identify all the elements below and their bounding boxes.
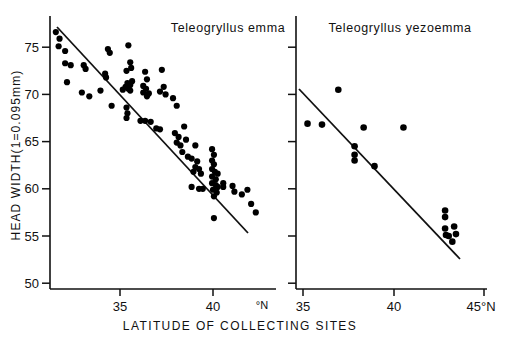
right-xtick-35: 35 — [296, 299, 310, 314]
scatter-point — [79, 89, 85, 95]
scatter-point — [179, 149, 185, 155]
scatter-point — [239, 191, 245, 197]
scatter-point — [194, 158, 200, 164]
scatter-point — [211, 193, 217, 199]
scatter-point — [253, 209, 259, 215]
scatter-point — [371, 163, 378, 170]
scatter-point — [192, 142, 198, 148]
y-axis-title: HEAD WIDTH(1=0.095mm) — [9, 70, 23, 241]
scatter-point — [190, 169, 196, 175]
scatter-point — [200, 186, 206, 192]
right-xtick-45: 45°N — [466, 299, 495, 314]
scatter-point — [198, 171, 204, 177]
scatter-point — [215, 171, 221, 177]
scatter-point — [97, 88, 103, 94]
scatter-point — [181, 123, 187, 129]
left-xtick-35: 35 — [113, 299, 127, 314]
scatter-point — [319, 121, 326, 128]
scatter-point — [445, 233, 452, 240]
scatter-point — [128, 65, 134, 71]
scatter-point — [360, 124, 367, 131]
scatter-point — [62, 60, 68, 66]
scatter-point — [177, 142, 183, 148]
scatter-point — [109, 103, 115, 109]
scatter-point — [220, 184, 226, 190]
figure-scatter-head-width: 75 70 65 60 55 50 35 40 °N Teleogryllus … — [0, 0, 515, 339]
scatter-point — [229, 183, 235, 189]
scatter-point — [64, 79, 70, 85]
scatter-point — [142, 118, 148, 124]
left-xtick-40: 40 — [206, 299, 220, 314]
scatter-point — [127, 59, 133, 65]
scatter-point — [400, 124, 407, 131]
right-y-ticks — [288, 47, 296, 283]
left-x-ticks — [120, 289, 213, 296]
right-trendline — [299, 89, 460, 259]
scatter-point — [142, 69, 148, 75]
left-panel: 75 70 65 60 55 50 35 40 °N Teleogryllus … — [25, 16, 286, 314]
scatter-point — [103, 74, 109, 80]
scatter-point — [86, 93, 92, 99]
scatter-point — [123, 105, 129, 111]
right-x-tick-labels: 35 40 45°N — [296, 299, 496, 314]
scatter-point — [335, 86, 342, 93]
scatter-point — [174, 103, 180, 109]
ytick-65: 65 — [25, 134, 39, 149]
scatter-point — [162, 91, 168, 97]
scatter-point — [351, 143, 358, 150]
scatter-point — [449, 238, 456, 245]
scatter-point — [183, 137, 189, 143]
right-x-ticks — [303, 289, 484, 296]
scatter-point — [442, 214, 449, 221]
ytick-75: 75 — [25, 40, 39, 55]
scatter-point — [304, 120, 311, 127]
right-panel-title: Teleogryllus yezoemma — [328, 21, 471, 35]
scatter-point — [442, 207, 449, 214]
scatter-point — [244, 187, 250, 193]
left-trendline — [57, 27, 248, 233]
scatter-point — [127, 88, 133, 94]
scatter-point — [170, 95, 176, 101]
scatter-point — [231, 189, 237, 195]
scatter-point — [159, 67, 165, 73]
left-scatter-points — [53, 29, 259, 221]
scatter-point — [62, 48, 68, 54]
scatter-point — [209, 146, 215, 152]
scatter-point — [442, 225, 449, 232]
scatter-point — [53, 29, 59, 35]
scatter-point — [453, 231, 460, 238]
left-x-tick-labels: 35 40 — [113, 299, 220, 314]
scatter-point — [148, 119, 154, 125]
scatter-point — [68, 62, 74, 68]
left-y-tick-labels: 75 70 65 60 55 50 — [25, 40, 39, 291]
scatter-point — [125, 42, 131, 48]
left-y-ticks — [42, 47, 50, 283]
left-x-unit-label: °N — [256, 299, 268, 311]
scatter-point — [123, 115, 129, 121]
ytick-70: 70 — [25, 87, 39, 102]
scatter-point — [211, 215, 217, 221]
scatter-point — [189, 155, 195, 161]
chart-canvas: 75 70 65 60 55 50 35 40 °N Teleogryllus … — [0, 0, 515, 339]
scatter-point — [189, 184, 195, 190]
scatter-point — [144, 76, 150, 82]
scatter-point — [351, 157, 358, 164]
scatter-point — [56, 43, 62, 49]
left-panel-title: Teleogryllus emma — [171, 21, 285, 35]
x-axis-title: LATITUDE OF COLLECTING SITES — [123, 319, 357, 333]
scatter-point — [120, 87, 126, 93]
ytick-50: 50 — [25, 276, 39, 291]
scatter-point — [56, 36, 62, 42]
right-panel: 35 40 45°N Teleogryllus yezoemma — [288, 16, 496, 314]
scatter-point — [82, 66, 88, 72]
scatter-point — [157, 88, 163, 94]
scatter-point — [211, 152, 217, 158]
scatter-point — [107, 50, 113, 56]
scatter-point — [175, 134, 181, 140]
scatter-point — [157, 126, 163, 132]
right-scatter-points — [304, 86, 459, 245]
ytick-60: 60 — [25, 181, 39, 196]
scatter-point — [248, 201, 254, 207]
scatter-point — [351, 152, 358, 159]
scatter-point — [451, 223, 458, 230]
